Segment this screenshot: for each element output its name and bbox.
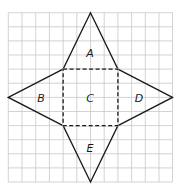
label-d: D <box>135 92 143 105</box>
label-c: C <box>86 92 94 105</box>
label-e: E <box>87 142 94 155</box>
pyramid-net-diagram: A B C D E <box>0 0 178 189</box>
label-a: A <box>85 47 94 60</box>
label-b: B <box>37 92 45 105</box>
